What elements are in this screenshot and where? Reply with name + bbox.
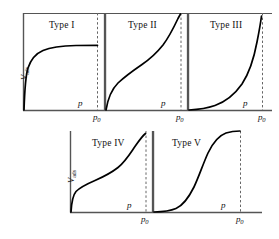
isotherm-chart-svg xyxy=(0,0,279,239)
type-2-isotherm-curve xyxy=(106,14,181,110)
adsorption-isotherm-figure: Type I Type II Type III Type IV Type V V… xyxy=(0,0,279,239)
type-5-isotherm-curve xyxy=(154,131,240,212)
type-3-isotherm-curve xyxy=(189,16,262,110)
type-4-isotherm-curve xyxy=(71,134,146,213)
type-1-isotherm-curve xyxy=(24,45,98,110)
